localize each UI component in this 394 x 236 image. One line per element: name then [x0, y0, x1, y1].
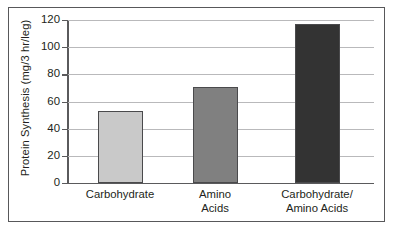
- category-label-line: Carbohydrate/: [262, 188, 372, 202]
- category-label-line: Acids: [160, 202, 270, 216]
- y-axis-tick: [62, 183, 68, 184]
- y-axis-tick-label: 40: [20, 122, 60, 134]
- y-axis-tick: [62, 156, 68, 157]
- gridline: [68, 20, 374, 21]
- y-axis-tick-label: 0: [20, 176, 60, 188]
- x-axis-category-label: Carbohydrate: [65, 188, 175, 202]
- x-axis-category-label: AminoAcids: [160, 188, 270, 215]
- y-axis-tick-label: 20: [20, 149, 60, 161]
- x-axis-category-label: Carbohydrate/Amino Acids: [262, 188, 372, 215]
- y-axis-tick: [62, 20, 68, 21]
- category-label-line: Carbohydrate: [65, 188, 175, 202]
- y-axis-tick-label: 80: [20, 67, 60, 79]
- y-axis-tick-label: 60: [20, 95, 60, 107]
- category-label-line: Amino: [160, 188, 270, 202]
- bar: [98, 111, 143, 183]
- y-axis-tick: [62, 74, 68, 75]
- y-axis-tick-label: 120: [20, 13, 60, 25]
- y-axis-tick-label: 100: [20, 40, 60, 52]
- bar: [193, 87, 238, 183]
- x-axis-baseline: [68, 183, 374, 184]
- y-axis-tick: [62, 102, 68, 103]
- y-axis-tick: [62, 129, 68, 130]
- bar-chart-figure: Protein Synthesis (mg/3 hr/leg) 02040608…: [0, 0, 394, 236]
- plot-area: [68, 20, 374, 183]
- bar: [295, 24, 340, 183]
- y-axis-tick: [62, 47, 68, 48]
- category-label-line: Amino Acids: [262, 202, 372, 216]
